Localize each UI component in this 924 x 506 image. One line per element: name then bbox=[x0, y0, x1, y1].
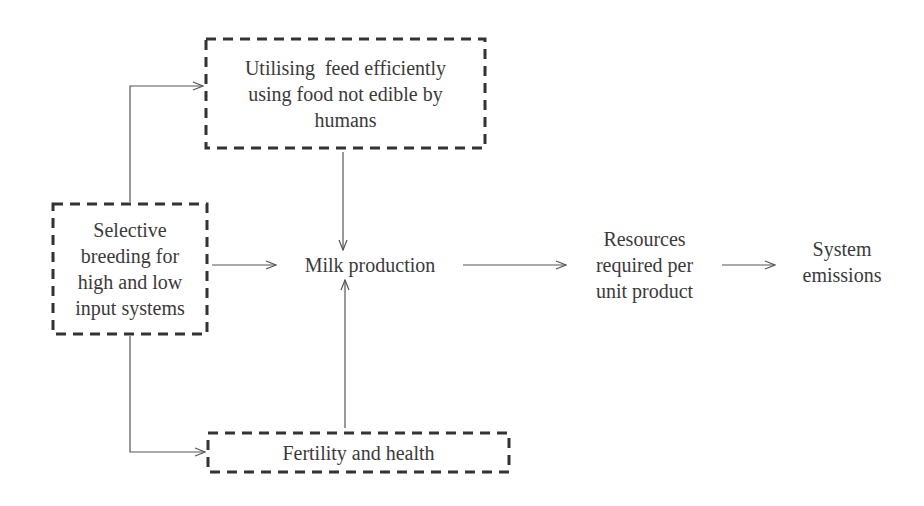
resources-node: Resources required per unit product bbox=[572, 220, 717, 310]
feed-efficiency-box: Utilising feed efficiently using food no… bbox=[206, 39, 485, 148]
resources-line-2: required per bbox=[596, 252, 693, 278]
fertility-health-label: Fertility and health bbox=[282, 440, 434, 466]
selective-breeding-line-3: high and low bbox=[75, 269, 184, 295]
milk-production-node: Milk production bbox=[282, 250, 458, 280]
flowchart-canvas: Utilising feed efficiently using food no… bbox=[0, 0, 924, 506]
selective-breeding-line-2: breeding for bbox=[75, 243, 184, 269]
system-emissions-line-1: System bbox=[803, 236, 882, 262]
feed-efficiency-line-1: Utilising feed efficiently bbox=[245, 55, 446, 81]
selective-breeding-line-1: Selective bbox=[75, 217, 184, 243]
system-emissions-line-2: emissions bbox=[803, 262, 882, 288]
resources-line-3: unit product bbox=[596, 278, 693, 304]
selective-breeding-box: Selective breeding for high and low inpu… bbox=[53, 204, 207, 334]
system-emissions-node: System emissions bbox=[782, 232, 902, 292]
resources-line-1: Resources bbox=[596, 226, 693, 252]
milk-production-label: Milk production bbox=[305, 252, 436, 278]
fertility-health-box: Fertility and health bbox=[208, 433, 509, 472]
arrow-breeding-to-fertility bbox=[130, 336, 205, 452]
selective-breeding-line-4: input systems bbox=[75, 295, 184, 321]
feed-efficiency-line-2: using food not edible by bbox=[245, 81, 446, 107]
arrow-breeding-to-feed bbox=[130, 86, 203, 202]
feed-efficiency-line-3: humans bbox=[245, 107, 446, 133]
